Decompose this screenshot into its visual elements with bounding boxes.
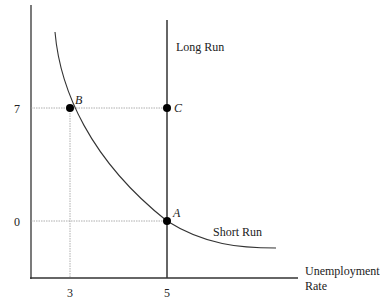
point-a: [163, 217, 171, 225]
short-run-label: Short Run: [213, 225, 262, 239]
y-tick-7: 7: [14, 102, 20, 116]
x-tick-3: 3: [67, 286, 73, 300]
point-a-label: A: [173, 206, 180, 220]
x-axis-label-line2: Rate: [305, 279, 327, 293]
long-run-label: Long Run: [176, 40, 224, 54]
point-c-label: C: [174, 101, 182, 115]
short-run-curve: [55, 32, 276, 248]
point-b: [66, 104, 74, 112]
point-c: [163, 104, 171, 112]
y-tick-0: 0: [14, 215, 20, 229]
point-b-label: B: [75, 93, 82, 107]
x-tick-5: 5: [164, 286, 170, 300]
x-axis-label-line1: Unemployment: [305, 264, 380, 278]
